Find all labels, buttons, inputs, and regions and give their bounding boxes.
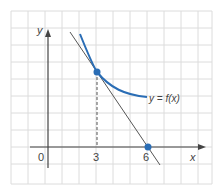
graph-figure: y x 0 3 6 y = f(x) (0, 0, 220, 191)
curve-label: y = f(x) (148, 93, 180, 104)
y-axis-label: y (36, 24, 44, 36)
y-axis-arrow-icon (45, 29, 51, 37)
x-intercept-point (145, 144, 152, 151)
tick-label-3: 3 (93, 151, 99, 163)
tangent-point (94, 69, 101, 76)
origin-label: 0 (38, 151, 44, 163)
x-axis-label: x (189, 151, 196, 163)
x-axis (30, 144, 206, 150)
tick-label-6: 6 (143, 151, 149, 163)
x-axis-arrow-icon (198, 144, 206, 150)
